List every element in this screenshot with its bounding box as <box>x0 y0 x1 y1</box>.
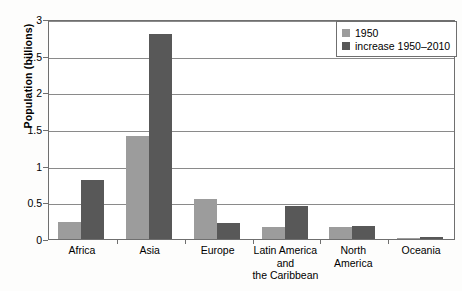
bar-group <box>117 21 185 239</box>
legend-item: 1950 <box>342 26 450 39</box>
y-axis-tick-label: 3 <box>12 14 42 26</box>
bar-group <box>253 21 321 239</box>
y-axis-tick-label: 2.5 <box>12 51 42 63</box>
bar <box>194 199 217 239</box>
x-axis-label-line: Latin America <box>252 244 320 257</box>
y-axis-tick-label: 1.5 <box>12 124 42 136</box>
bar <box>352 226 375 239</box>
y-axis-tick-label: 0 <box>12 234 42 246</box>
legend-swatch <box>342 29 350 37</box>
x-axis-label-line: Africa <box>48 244 116 257</box>
bar <box>420 237 443 239</box>
legend-item: increase 1950–2010 <box>342 39 450 52</box>
x-axis-category-label: Oceania <box>387 244 455 257</box>
bar <box>262 227 285 239</box>
x-axis-category-label: Asia <box>116 244 184 257</box>
x-axis-label-line: North <box>319 244 387 257</box>
x-axis-category-label: NorthAmerica <box>319 244 387 269</box>
x-axis-label-line: the Caribbean <box>252 269 320 282</box>
bar <box>58 222 81 239</box>
x-axis-label-line: America <box>319 257 387 270</box>
y-axis-tick-label: 2 <box>12 87 42 99</box>
bar <box>81 180 104 239</box>
x-axis-category-label: Africa <box>48 244 116 257</box>
y-axis-tick-label: 1 <box>12 161 42 173</box>
y-axis-tick-mark <box>43 240 48 241</box>
legend-swatch <box>342 42 350 50</box>
y-axis-tick-label: 0.5 <box>12 197 42 209</box>
bar-group <box>49 21 117 239</box>
bar-group <box>185 21 253 239</box>
bar <box>397 238 420 239</box>
chart-figure: Population (billions) 00.511.522.53 Afri… <box>0 0 462 291</box>
x-axis-label-line: Oceania <box>387 244 455 257</box>
legend-label: 1950 <box>355 27 378 39</box>
chart-legend: 1950increase 1950–2010 <box>336 21 457 57</box>
x-axis-label-line: and <box>252 257 320 270</box>
bar <box>149 34 172 239</box>
x-axis-category-label: Latin Americaandthe Caribbean <box>252 244 320 282</box>
bar <box>126 136 149 239</box>
bar <box>217 223 240 239</box>
x-axis-label-line: Europe <box>184 244 252 257</box>
legend-label: increase 1950–2010 <box>355 40 450 52</box>
bar <box>285 206 308 239</box>
x-axis-label-line: Asia <box>116 244 184 257</box>
bar <box>329 227 352 239</box>
x-axis-category-label: Europe <box>184 244 252 257</box>
